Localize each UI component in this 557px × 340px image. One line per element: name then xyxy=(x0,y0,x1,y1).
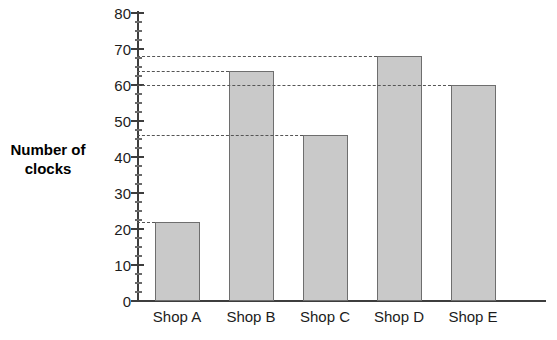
y-axis-minor-tick xyxy=(135,291,142,293)
y-axis-minor-tick xyxy=(135,111,142,113)
y-axis-minor-tick xyxy=(135,273,142,275)
y-axis-minor-tick xyxy=(135,30,142,32)
y-axis-tick-label: 80 xyxy=(97,5,131,22)
bar-chart: Number of clocks 80706050403020100 Shop … xyxy=(0,0,557,340)
y-axis-title-line-2: clocks xyxy=(0,159,96,178)
guide-line-60 xyxy=(137,85,451,86)
guide-line-46 xyxy=(137,135,303,136)
y-axis-minor-tick xyxy=(135,174,142,176)
y-axis-minor-tick xyxy=(135,237,142,239)
y-axis-minor-tick xyxy=(135,183,142,185)
y-axis-major-tick xyxy=(131,264,144,266)
y-axis-minor-tick xyxy=(135,75,142,77)
y-axis-minor-tick xyxy=(135,255,142,257)
y-axis-minor-tick xyxy=(135,57,142,59)
y-axis-title: Number of clocks xyxy=(0,140,96,178)
y-axis-minor-tick xyxy=(135,102,142,104)
y-axis-minor-tick xyxy=(135,138,142,140)
x-axis-label-shop-c: Shop C xyxy=(300,308,350,325)
y-axis-tick-label: 0 xyxy=(97,293,131,310)
y-axis-minor-tick xyxy=(135,66,142,68)
y-axis-title-line-1: Number of xyxy=(0,140,96,159)
bar-shop-b xyxy=(229,71,274,301)
y-axis-minor-tick xyxy=(135,210,142,212)
y-axis-minor-tick xyxy=(135,282,142,284)
y-axis-major-tick xyxy=(131,12,144,14)
x-axis-label-shop-a: Shop A xyxy=(153,308,201,325)
y-axis-tick-label: 60 xyxy=(97,77,131,94)
x-axis-label-shop-b: Shop B xyxy=(226,308,275,325)
y-axis-major-tick xyxy=(131,48,144,50)
x-axis-label-shop-e: Shop E xyxy=(448,308,497,325)
y-axis-minor-tick xyxy=(135,201,142,203)
y-axis-minor-tick xyxy=(135,246,142,248)
y-axis-minor-tick xyxy=(135,21,142,23)
y-axis-major-tick xyxy=(131,120,144,122)
guide-line-68 xyxy=(137,56,377,57)
y-axis-tick-label: 20 xyxy=(97,221,131,238)
y-axis-major-tick xyxy=(131,228,144,230)
y-axis-tick-label: 10 xyxy=(97,257,131,274)
y-axis-minor-tick xyxy=(135,165,142,167)
bar-shop-e xyxy=(451,85,496,301)
y-axis-tick-label: 30 xyxy=(97,185,131,202)
plot-area xyxy=(137,13,546,301)
y-axis-tick-label: 70 xyxy=(97,41,131,58)
bar-shop-a xyxy=(155,222,200,301)
y-axis-minor-tick xyxy=(135,39,142,41)
y-axis-tick-labels: 80706050403020100 xyxy=(95,13,131,301)
x-axis-label-shop-d: Shop D xyxy=(374,308,424,325)
y-axis-major-tick xyxy=(131,192,144,194)
y-axis-minor-tick xyxy=(135,93,142,95)
bar-shop-d xyxy=(377,56,422,301)
y-axis-minor-tick xyxy=(135,219,142,221)
y-axis-major-tick xyxy=(131,156,144,158)
guide-line-64 xyxy=(137,71,229,72)
y-axis-major-tick xyxy=(131,300,144,302)
y-axis-tick-label: 40 xyxy=(97,149,131,166)
guide-line-22 xyxy=(137,222,155,223)
y-axis-minor-tick xyxy=(135,129,142,131)
y-axis-minor-tick xyxy=(135,147,142,149)
y-axis-tick-label: 50 xyxy=(97,113,131,130)
bar-shop-c xyxy=(303,135,348,301)
